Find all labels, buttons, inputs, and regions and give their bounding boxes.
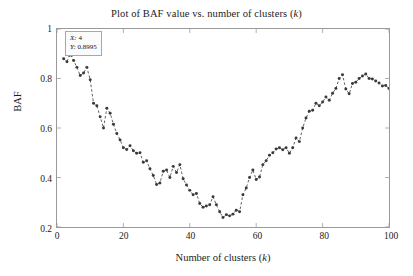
data-point[interactable] bbox=[361, 75, 364, 78]
data-point[interactable] bbox=[192, 193, 195, 196]
data-point[interactable] bbox=[348, 92, 351, 95]
data-point[interactable] bbox=[222, 216, 225, 219]
data-point[interactable] bbox=[212, 195, 215, 198]
data-point[interactable] bbox=[139, 151, 142, 154]
data-point[interactable] bbox=[65, 60, 68, 63]
data-point[interactable] bbox=[268, 154, 271, 157]
data-point[interactable] bbox=[281, 148, 284, 151]
data-point[interactable] bbox=[245, 186, 248, 189]
data-point[interactable] bbox=[278, 146, 281, 149]
data-point[interactable] bbox=[318, 104, 321, 107]
data-point[interactable] bbox=[384, 84, 387, 87]
data-point[interactable] bbox=[308, 110, 311, 113]
data-point[interactable] bbox=[258, 176, 261, 179]
data-point[interactable] bbox=[324, 96, 327, 99]
data-point[interactable] bbox=[202, 206, 205, 209]
data-point[interactable] bbox=[89, 78, 92, 81]
data-point[interactable] bbox=[158, 181, 161, 184]
data-point[interactable] bbox=[119, 138, 122, 141]
data-tip-box[interactable]: X: 4 Y: 0.8995 bbox=[65, 31, 102, 56]
data-point[interactable] bbox=[79, 74, 82, 77]
data-point[interactable] bbox=[291, 146, 294, 149]
data-point[interactable] bbox=[374, 79, 377, 82]
data-point[interactable] bbox=[341, 73, 344, 76]
data-point[interactable] bbox=[112, 123, 115, 126]
data-point[interactable] bbox=[172, 165, 175, 168]
data-point[interactable] bbox=[251, 169, 254, 172]
data-point[interactable] bbox=[368, 77, 371, 80]
data-point[interactable] bbox=[314, 102, 317, 105]
data-point[interactable] bbox=[241, 193, 244, 196]
data-point[interactable] bbox=[102, 127, 105, 130]
data-point[interactable] bbox=[334, 87, 337, 90]
data-point[interactable] bbox=[255, 178, 258, 181]
data-point[interactable] bbox=[288, 152, 291, 155]
data-point[interactable] bbox=[162, 170, 165, 173]
data-point[interactable] bbox=[165, 169, 168, 172]
data-point[interactable] bbox=[215, 203, 218, 206]
data-point[interactable] bbox=[152, 174, 155, 177]
data-point[interactable] bbox=[95, 104, 98, 107]
data-point[interactable] bbox=[105, 107, 108, 110]
data-point[interactable] bbox=[129, 144, 132, 147]
data-point[interactable] bbox=[182, 177, 185, 180]
data-point[interactable] bbox=[175, 171, 178, 174]
data-point[interactable] bbox=[99, 115, 102, 118]
data-point[interactable] bbox=[178, 163, 181, 166]
data-point[interactable] bbox=[218, 210, 221, 213]
data-point[interactable] bbox=[225, 213, 228, 216]
data-point[interactable] bbox=[248, 176, 251, 179]
data-point[interactable] bbox=[271, 151, 274, 154]
data-point[interactable] bbox=[62, 57, 65, 60]
data-point[interactable] bbox=[261, 163, 264, 166]
data-point[interactable] bbox=[238, 210, 241, 213]
data-tip-x-value: 4 bbox=[78, 34, 82, 42]
data-point[interactable] bbox=[235, 209, 238, 212]
data-point[interactable] bbox=[344, 87, 347, 90]
data-point[interactable] bbox=[205, 204, 208, 207]
data-point[interactable] bbox=[295, 136, 298, 139]
data-point[interactable] bbox=[155, 183, 158, 186]
data-point[interactable] bbox=[188, 189, 191, 192]
data-point[interactable] bbox=[298, 140, 301, 143]
data-point[interactable] bbox=[85, 66, 88, 69]
data-point[interactable] bbox=[109, 112, 112, 115]
data-point[interactable] bbox=[122, 146, 125, 149]
data-point[interactable] bbox=[132, 149, 135, 152]
data-point[interactable] bbox=[145, 159, 148, 162]
data-point[interactable] bbox=[331, 92, 334, 95]
plot-area[interactable]: 0.20.40.60.81 020406080100 X: 4 Y: 0.899… bbox=[56, 28, 390, 228]
data-point[interactable] bbox=[381, 84, 384, 87]
data-point[interactable] bbox=[305, 117, 308, 120]
data-point[interactable] bbox=[168, 176, 171, 179]
data-point[interactable] bbox=[351, 82, 354, 85]
data-point[interactable] bbox=[285, 146, 288, 149]
data-point[interactable] bbox=[125, 148, 128, 151]
data-point[interactable] bbox=[72, 59, 75, 62]
data-point[interactable] bbox=[364, 73, 367, 76]
data-point[interactable] bbox=[321, 101, 324, 104]
data-point[interactable] bbox=[265, 159, 268, 162]
data-point[interactable] bbox=[228, 214, 231, 217]
data-point[interactable] bbox=[208, 203, 211, 206]
data-point[interactable] bbox=[311, 109, 314, 112]
data-point[interactable] bbox=[301, 127, 304, 130]
data-point[interactable] bbox=[358, 77, 361, 80]
data-point[interactable] bbox=[378, 81, 381, 84]
data-point[interactable] bbox=[75, 66, 78, 69]
data-point[interactable] bbox=[185, 183, 188, 186]
data-point[interactable] bbox=[115, 132, 118, 135]
data-point[interactable] bbox=[92, 102, 95, 105]
data-point[interactable] bbox=[148, 167, 151, 170]
data-point[interactable] bbox=[198, 202, 201, 205]
data-point[interactable] bbox=[338, 77, 341, 80]
data-point[interactable] bbox=[275, 148, 278, 151]
data-point[interactable] bbox=[195, 192, 198, 195]
data-point[interactable] bbox=[354, 81, 357, 84]
data-point[interactable] bbox=[135, 152, 138, 155]
data-point[interactable] bbox=[142, 161, 145, 164]
data-point[interactable] bbox=[328, 99, 331, 102]
data-point[interactable] bbox=[82, 72, 85, 75]
data-point[interactable] bbox=[231, 213, 234, 216]
data-point[interactable] bbox=[371, 78, 374, 81]
